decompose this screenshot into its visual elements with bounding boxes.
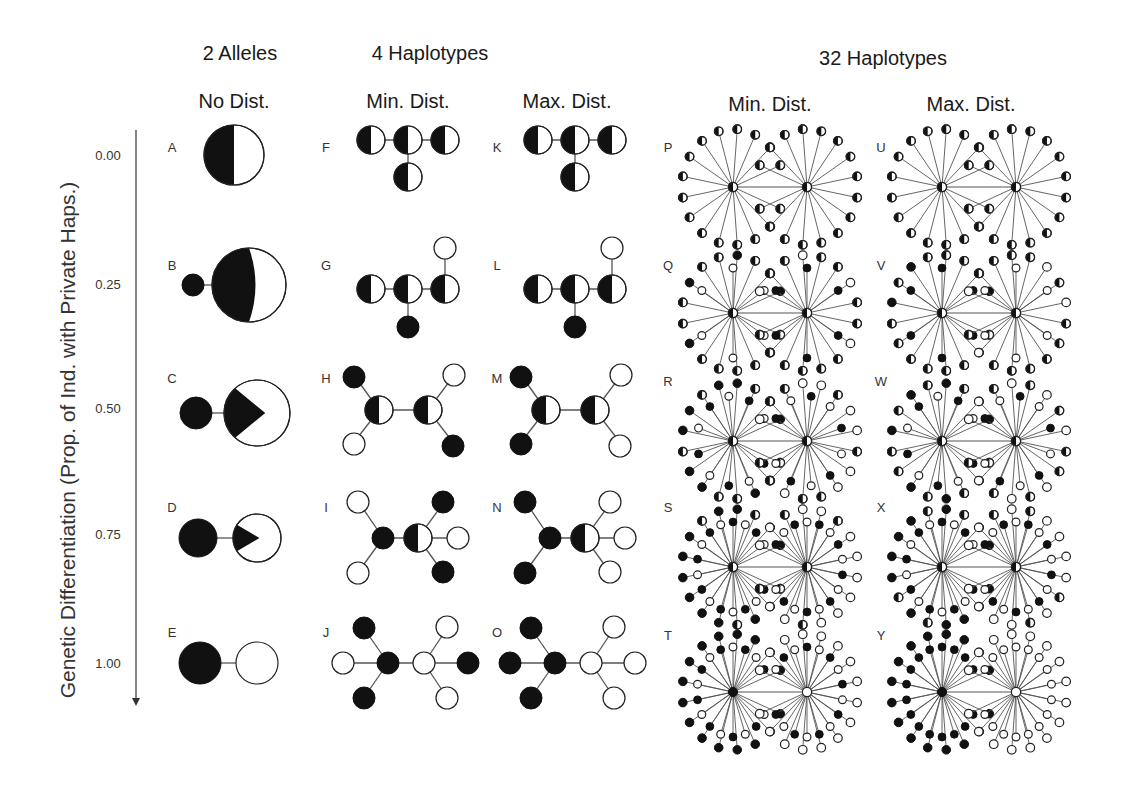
- network-l: [524, 237, 626, 338]
- network-x: [888, 505, 1071, 629]
- network-b: [182, 248, 286, 322]
- network-w: [888, 379, 1071, 503]
- network-s: [679, 505, 862, 629]
- network-q: [679, 251, 862, 375]
- network-f: [357, 126, 459, 191]
- network-e: [179, 642, 278, 684]
- network-a: [204, 125, 264, 185]
- network-m: [510, 364, 632, 457]
- network-g: [357, 237, 459, 338]
- network-o: [499, 616, 646, 709]
- network-j: [332, 616, 479, 709]
- network-p: [679, 125, 862, 249]
- haplotype-networks: [0, 0, 1124, 791]
- network-c: [180, 380, 290, 446]
- network-n: [514, 491, 636, 584]
- network-t: [679, 630, 862, 754]
- network-i: [347, 491, 469, 584]
- network-v: [888, 251, 1071, 375]
- network-r: [679, 379, 862, 503]
- network-u: [888, 125, 1071, 249]
- arrow-down-icon: [132, 698, 140, 706]
- network-h: [343, 364, 465, 457]
- network-k: [524, 126, 626, 191]
- network-y: [888, 630, 1071, 754]
- network-d: [179, 514, 281, 562]
